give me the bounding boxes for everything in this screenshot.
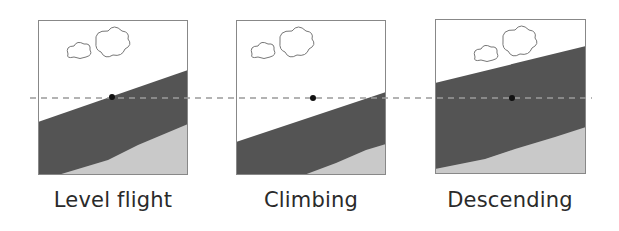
aircraft-dot-level (109, 94, 115, 100)
caption-descending: Descending (410, 188, 610, 212)
aircraft-dot-climbing (310, 95, 316, 101)
caption-level-flight: Level flight (13, 188, 213, 212)
aircraft-dot-descending (509, 95, 515, 101)
caption-climbing: Climbing (211, 188, 411, 212)
